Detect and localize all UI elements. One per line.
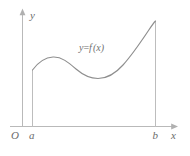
x-tick-label-b: b <box>153 129 159 141</box>
function-graph-figure: y x O a b y=f(x) <box>0 0 190 156</box>
curve-equation-label: y=f(x) <box>78 42 105 54</box>
curve-label-arg: (x) <box>93 42 105 54</box>
graph-canvas: y x O a b y=f(x) <box>0 0 190 156</box>
y-axis-label: y <box>29 9 35 21</box>
origin-label: O <box>11 129 19 141</box>
axis-arrow-up-icon <box>20 9 26 16</box>
x-axis-label: x <box>170 129 176 141</box>
x-tick-label-a: a <box>29 129 35 141</box>
